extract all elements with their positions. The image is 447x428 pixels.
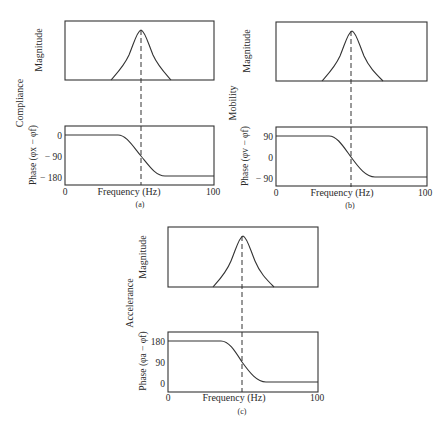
magnitude-curve [213,236,274,287]
frf-figure: Magnitude Compliance Phase (φx − φf) 0 −… [0,0,447,428]
phase-tick-0: 180 [151,337,166,347]
phase-axis-label: Phase (φa − φf) [138,331,149,390]
phase-curve [168,341,318,382]
quantity-label: Compliance [14,78,25,127]
phase-tick-2: − 180 [40,173,62,183]
x-tick-min: 0 [274,188,279,198]
magnitude-axis-label: Magnitude [241,29,252,73]
magnitude-axis-label: Magnitude [33,28,44,72]
phase-axis-label: Phase (φx − φf) [28,125,39,185]
quantity-label: Accelerance [124,278,135,328]
x-axis-label: Frequency (Hz) [97,186,160,198]
phase-tick-1: − 90 [45,152,62,162]
phase-tick-0: 90 [264,132,274,142]
phase-tick-0: 0 [57,131,62,141]
phase-tick-2: − 90 [256,174,273,184]
x-axis-label: Frequency (Hz) [310,187,373,199]
phase-tick-1: 90 [156,358,166,368]
phase-tick-2: 0 [160,379,165,389]
phase-tick-1: 0 [268,153,273,163]
panel-caption: (b) [345,201,355,210]
quantity-label: Mobility [227,85,238,120]
x-tick-min: 0 [63,187,68,197]
panel-b: Magnitude Mobility Phase (φv − φf) 90 0 … [227,22,432,210]
magnitude-axis-label: Magnitude [137,235,148,279]
panel-a: Magnitude Compliance Phase (φx − φf) 0 −… [14,21,220,209]
magnitude-curve [322,31,383,81]
magnitude-plot-frame [65,21,214,80]
panel-caption: (c) [238,407,247,416]
x-tick-max: 100 [310,393,325,403]
x-tick-max: 100 [418,188,433,198]
x-tick-max: 100 [206,187,221,197]
x-axis-label: Frequency (Hz) [202,392,265,404]
phase-curve [65,135,214,176]
x-tick-min: 0 [166,393,171,403]
panel-c: Magnitude Accelerance Phase (φa − φf) 18… [124,227,324,416]
panel-caption: (a) [136,200,145,209]
phase-axis-label: Phase (φv − φf) [240,126,251,186]
